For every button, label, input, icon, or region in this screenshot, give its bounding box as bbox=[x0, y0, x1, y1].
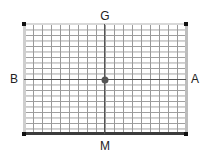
corner-marker-top-right bbox=[184, 22, 188, 26]
label-top: G bbox=[100, 10, 109, 22]
label-left: B bbox=[10, 73, 18, 85]
label-right: A bbox=[191, 73, 199, 85]
corner-marker-top-left bbox=[22, 22, 26, 26]
edge-bottom bbox=[24, 132, 187, 135]
edge-top bbox=[24, 23, 186, 25]
corner-marker-bottom-left bbox=[22, 132, 26, 136]
center-dot bbox=[102, 77, 109, 84]
label-bottom: M bbox=[100, 140, 110, 152]
corner-marker-bottom-right bbox=[184, 132, 188, 136]
